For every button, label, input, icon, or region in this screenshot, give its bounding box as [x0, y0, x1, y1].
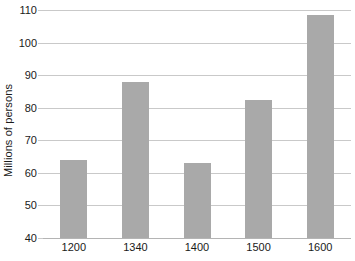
y-tick-mark-70 [38, 140, 43, 141]
plot-area: 405060708090100110 12001340140015001600 [43, 0, 351, 261]
bar-chart: Millions of persons 405060708090100110 1… [0, 0, 355, 261]
bar-1200[interactable] [60, 160, 87, 238]
gridline-90 [43, 75, 351, 76]
gridline-110 [43, 10, 351, 11]
y-tick-label-40: 40 [25, 232, 37, 244]
x-tick-label-1600: 1600 [290, 241, 350, 253]
y-tick-mark-110 [38, 10, 43, 11]
gridline-40 [43, 238, 351, 239]
y-tick-label-90: 90 [25, 69, 37, 81]
y-tick-label-100: 100 [19, 37, 37, 49]
bar-1400[interactable] [184, 163, 211, 238]
x-tick-label-1500: 1500 [229, 241, 289, 253]
bar-1500[interactable] [245, 100, 272, 238]
y-tick-mark-60 [38, 173, 43, 174]
y-tick-label-50: 50 [25, 199, 37, 211]
x-tick-label-1340: 1340 [105, 241, 165, 253]
y-tick-mark-40 [38, 238, 43, 239]
bar-1340[interactable] [122, 82, 149, 238]
y-tick-label-110: 110 [19, 4, 37, 16]
y-tick-mark-100 [38, 43, 43, 44]
gridline-100 [43, 43, 351, 44]
y-tick-label-70: 70 [25, 134, 37, 146]
gridline-80 [43, 108, 351, 109]
y-tick-mark-80 [38, 108, 43, 109]
y-tick-mark-90 [38, 75, 43, 76]
y-tick-label-80: 80 [25, 102, 37, 114]
y-axis-title: Millions of persons [0, 0, 16, 261]
gridline-70 [43, 140, 351, 141]
y-tick-mark-50 [38, 205, 43, 206]
x-tick-label-1200: 1200 [44, 241, 104, 253]
bar-1600[interactable] [307, 15, 334, 238]
y-tick-label-60: 60 [25, 167, 37, 179]
x-tick-label-1400: 1400 [167, 241, 227, 253]
